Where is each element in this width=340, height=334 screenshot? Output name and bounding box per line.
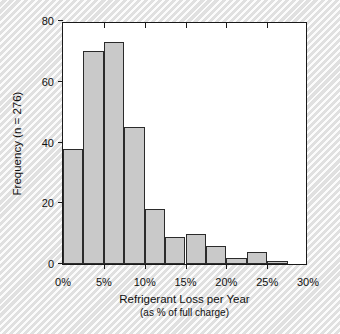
x-tick-top — [267, 23, 268, 28]
histogram-figure: Frequency (n = 276) 020406080 0%5%10%15%… — [0, 0, 340, 334]
y-axis-title: Frequency (n = 276) — [6, 22, 28, 265]
y-tick-label: 20 — [42, 195, 54, 211]
y-tick: 40 — [58, 142, 63, 143]
y-tick-label: 40 — [42, 135, 54, 151]
x-tick-top — [226, 23, 227, 28]
x-tick — [267, 264, 268, 269]
y-tick: 80 — [58, 20, 63, 21]
y-tick-label: 0 — [48, 256, 54, 272]
x-axis-subtitle: (as % of full charge) — [62, 306, 307, 319]
x-tick — [104, 264, 105, 269]
y-tick-label: 60 — [42, 74, 54, 90]
histogram-bar — [145, 209, 165, 264]
histogram-bar — [267, 261, 287, 264]
x-tick-top — [104, 23, 105, 28]
histogram-bar — [165, 237, 185, 264]
y-tick: 60 — [58, 81, 63, 82]
x-tick-label: 20% — [215, 275, 237, 289]
histogram-bar — [124, 127, 144, 264]
x-tick — [186, 264, 187, 269]
y-tick-label: 80 — [42, 13, 54, 29]
x-tick-label: 25% — [256, 275, 278, 289]
histogram-bar — [206, 246, 226, 264]
x-tick-top — [145, 23, 146, 28]
x-tick-label: 30% — [297, 275, 319, 289]
x-tick-label: 10% — [134, 275, 156, 289]
y-tick: 0 — [58, 263, 63, 264]
x-tick — [145, 264, 146, 269]
histogram-bar — [104, 42, 124, 264]
x-axis-title-block: Refrigerant Loss per Year (as % of full … — [62, 292, 307, 319]
x-tick — [226, 264, 227, 269]
histogram-bar — [247, 252, 267, 264]
x-tick-label: 0% — [55, 275, 71, 289]
histogram-bar — [186, 234, 206, 264]
x-tick-label: 5% — [96, 275, 112, 289]
histogram-bar — [63, 149, 83, 264]
x-axis-title: Refrigerant Loss per Year — [62, 292, 307, 306]
histogram-bar — [226, 258, 246, 264]
y-tick: 20 — [58, 202, 63, 203]
x-tick-top — [186, 23, 187, 28]
plot-frame: 020406080 0%5%10%15%20%25%30% — [62, 22, 307, 265]
x-tick-label: 15% — [174, 275, 196, 289]
plot-area: 020406080 0%5%10%15%20%25%30% — [63, 23, 306, 264]
histogram-bar — [83, 51, 103, 264]
